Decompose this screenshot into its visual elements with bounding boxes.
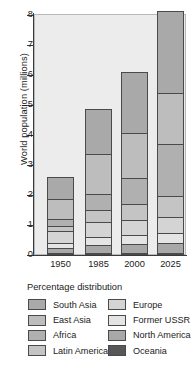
y-tick-label: 7 [13, 40, 33, 49]
legend-swatch-icon [108, 345, 126, 356]
bar-segment-africa [157, 144, 184, 197]
legend-swatch-icon [28, 315, 46, 326]
bar-segment-south-asia [85, 109, 112, 154]
x-tick-label-2000: 2000 [115, 259, 155, 269]
bar-segment-africa [47, 219, 74, 226]
legend-item-east-asia[interactable]: East Asia [28, 315, 108, 326]
bar-segment-east-asia [157, 93, 184, 143]
y-tick-label: 4 [13, 130, 33, 139]
x-axis-line [33, 255, 187, 256]
bar-segment-north-america [85, 245, 112, 253]
bar-segment-europe [85, 222, 112, 237]
bar-1985 [85, 109, 112, 255]
bar-segment-europe [157, 217, 184, 232]
y-tick-label: 1 [13, 220, 33, 229]
bar-segment-latin-america [157, 196, 184, 217]
population-stacked-bar-figure: World population (millions) 012345678 19… [0, 0, 194, 381]
legend-label: North America [133, 330, 191, 340]
x-tick-label-2025: 2025 [151, 259, 191, 269]
chart-legend: Percentage distribution South AsiaEurope… [0, 277, 194, 381]
bar-segment-south-asia [121, 72, 148, 134]
legend-label: Former USSR [133, 315, 190, 325]
bar-segment-former-ussr [157, 233, 184, 244]
legend-label: East Asia [53, 315, 91, 325]
bar-segment-north-america [157, 243, 184, 253]
plot-region: World population (millions) 012345678 19… [0, 0, 194, 278]
legend-item-north-america[interactable]: North America [108, 330, 188, 341]
legend-entries: South AsiaEuropeEast AsiaFormer USSRAfri… [28, 297, 194, 359]
bar-segment-east-asia [121, 133, 148, 178]
legend-item-south-asia[interactable]: South Asia [28, 299, 108, 310]
legend-swatch-icon [108, 315, 126, 326]
bar-segment-africa [85, 194, 112, 211]
legend-title: Percentage distribution [27, 282, 122, 292]
legend-item-latin-america[interactable]: Latin America [28, 345, 108, 356]
bar-segment-north-america [121, 244, 148, 253]
bar-segment-former-ussr [85, 237, 112, 245]
legend-item-africa[interactable]: Africa [28, 330, 108, 341]
bar-segment-africa [121, 178, 148, 204]
y-tick-label: 0 [13, 250, 33, 259]
bar-group [35, 15, 185, 255]
y-tick-label: 6 [13, 70, 33, 79]
legend-label: South Asia [53, 300, 96, 310]
bar-1950 [47, 177, 74, 255]
y-tick-label: 2 [13, 190, 33, 199]
bar-segment-former-ussr [121, 235, 148, 244]
legend-row: South AsiaEurope [28, 297, 194, 312]
legend-swatch-icon [28, 299, 46, 310]
legend-swatch-icon [108, 299, 126, 310]
legend-swatch-icon [28, 330, 46, 341]
legend-label: Latin America [53, 346, 108, 356]
legend-row: Latin AmericaOceania [28, 343, 194, 358]
legend-item-former-ussr[interactable]: Former USSR [108, 315, 188, 326]
y-tick-label: 8 [13, 10, 33, 19]
legend-label: Europe [133, 300, 162, 310]
legend-swatch-icon [28, 345, 46, 356]
legend-label: Africa [53, 330, 76, 340]
legend-item-europe[interactable]: Europe [108, 299, 188, 310]
bar-segment-east-asia [47, 199, 74, 219]
legend-row: East AsiaFormer USSR [28, 312, 194, 327]
y-tick-label: 5 [13, 100, 33, 109]
x-tick-label-1950: 1950 [41, 259, 81, 269]
legend-item-oceania[interactable]: Oceania [108, 345, 188, 356]
bar-segment-europe [47, 231, 74, 243]
bar-segment-south-asia [157, 11, 184, 93]
x-tick-label-1985: 1985 [79, 259, 119, 269]
bar-2025 [157, 11, 184, 255]
legend-row: AfricaNorth America [28, 328, 194, 343]
legend-label: Oceania [133, 346, 167, 356]
legend-swatch-icon [108, 330, 126, 341]
bar-segment-latin-america [121, 204, 148, 220]
bar-segment-europe [121, 220, 148, 235]
bar-2000 [121, 72, 148, 255]
y-tick-label: 3 [13, 160, 33, 169]
bar-segment-latin-america [85, 210, 112, 222]
bar-segment-east-asia [85, 154, 112, 194]
bar-segment-south-asia [47, 177, 74, 199]
